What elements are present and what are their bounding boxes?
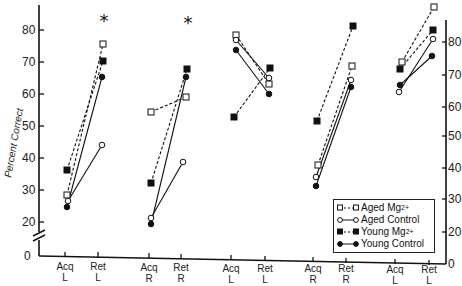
x-label-side: L bbox=[95, 272, 101, 283]
x-label-side: L bbox=[262, 274, 268, 285]
aged-mg-marker bbox=[266, 81, 272, 87]
markers bbox=[64, 4, 437, 227]
young-control-marker bbox=[183, 74, 189, 80]
left-tick-40: 40 bbox=[22, 151, 36, 165]
young-control-marker bbox=[348, 84, 354, 90]
right-tick-50: 50 bbox=[448, 129, 462, 143]
filled-circle-solid-icon bbox=[337, 240, 359, 248]
young-control-marker bbox=[99, 74, 105, 80]
legend-item-aged-mg: Aged Mg2+ bbox=[337, 202, 431, 214]
young-control-marker bbox=[233, 47, 239, 53]
aged-mg-marker bbox=[183, 94, 189, 100]
x-label-side: R bbox=[145, 273, 152, 284]
x-axis: Acq L Ret L Acq R Ret R Acq L Ret L Acq … bbox=[39, 252, 446, 286]
left-tick-20: 20 bbox=[22, 215, 36, 229]
x-label-ret: Ret bbox=[90, 261, 106, 272]
young-control-marker bbox=[266, 91, 272, 97]
x-label-acq: Acq bbox=[140, 262, 157, 273]
young-control-marker bbox=[313, 183, 319, 189]
aged-control-marker bbox=[233, 37, 239, 43]
right-tick-20: 20 bbox=[448, 225, 462, 239]
young-mg-marker bbox=[397, 66, 403, 72]
young-mg-marker bbox=[314, 118, 320, 124]
x-label-acq: Acq bbox=[222, 263, 239, 274]
x-label-side: R bbox=[309, 274, 316, 285]
right-tick-60: 60 bbox=[448, 100, 462, 114]
aged-control-marker bbox=[266, 75, 272, 81]
aged-control-marker bbox=[65, 198, 71, 204]
x-label-side: L bbox=[62, 272, 68, 283]
aged-mg-marker bbox=[349, 63, 355, 69]
young-control-marker bbox=[429, 53, 435, 59]
aged-mg-marker bbox=[399, 59, 405, 65]
open-circle-solid-icon bbox=[337, 216, 359, 224]
right-tick-70: 70 bbox=[448, 68, 462, 82]
young-control-marker bbox=[64, 204, 70, 210]
aged-mg-marker bbox=[64, 192, 70, 198]
legend-label: Aged Mg bbox=[361, 202, 401, 214]
aged-mg-marker bbox=[100, 41, 106, 47]
right-tick-30: 30 bbox=[448, 192, 462, 206]
data-series bbox=[67, 7, 434, 224]
x-label-side: R bbox=[177, 273, 184, 284]
legend-item-young-control: Young Control bbox=[337, 238, 431, 250]
y-axis-label: Percent Correct bbox=[2, 106, 25, 178]
open-square-dashed-icon bbox=[337, 204, 359, 212]
left-tick-60: 60 bbox=[22, 87, 36, 101]
right-tick-40: 40 bbox=[448, 161, 462, 175]
aged-control-marker bbox=[348, 77, 354, 83]
aged-mg-marker bbox=[431, 4, 437, 10]
left-tick-0: 0 bbox=[24, 249, 31, 263]
x-label-acq: Acq bbox=[56, 261, 73, 272]
significance-star: * bbox=[100, 10, 109, 31]
x-label-side: L bbox=[228, 274, 234, 285]
left-y-axis: 80 70 60 50 40 30 20 0 Percent Correct bbox=[2, 5, 45, 263]
aged-mg-marker bbox=[148, 109, 154, 115]
legend-item-aged-control: Aged Control bbox=[337, 214, 431, 226]
aged-mg-marker bbox=[315, 162, 321, 168]
young-mg-marker bbox=[267, 65, 273, 71]
aged-control-marker bbox=[396, 89, 402, 95]
x-label-side: R bbox=[342, 274, 349, 285]
young-mg-marker bbox=[430, 27, 436, 33]
legend-label: Young Mg bbox=[361, 226, 406, 238]
legend: Aged Mg2+ Aged Control Young Mg2+ Young … bbox=[333, 199, 435, 253]
x-label-acq: Acq bbox=[304, 263, 321, 274]
left-tick-80: 80 bbox=[22, 23, 36, 37]
significance-star: * bbox=[184, 12, 193, 33]
young-mg-marker bbox=[184, 66, 190, 72]
filled-square-dashed-icon bbox=[337, 228, 359, 236]
legend-item-young-mg: Young Mg2+ bbox=[337, 226, 431, 238]
aged-control-marker bbox=[313, 174, 319, 180]
aged-control-marker bbox=[180, 159, 186, 165]
aged-control-marker bbox=[99, 142, 105, 148]
young-mg-marker bbox=[231, 114, 237, 120]
legend-superscript: 2+ bbox=[401, 202, 409, 214]
aged-control-marker bbox=[148, 215, 154, 221]
legend-label: Young Control bbox=[361, 238, 424, 250]
left-tick-50: 50 bbox=[22, 119, 36, 133]
right-tick-0: 0 bbox=[448, 257, 455, 271]
right-y-axis: 80 70 60 50 40 30 20 0 bbox=[442, 20, 462, 271]
young-mg-marker bbox=[100, 58, 106, 64]
young-control-marker bbox=[148, 221, 154, 227]
x-label-ret: Ret bbox=[338, 263, 354, 274]
legend-superscript: 2+ bbox=[406, 226, 414, 238]
legend-label: Aged Control bbox=[361, 214, 419, 226]
x-label-acq: Acq bbox=[386, 264, 403, 275]
x-label-ret: Ret bbox=[421, 264, 437, 275]
x-label-side: L bbox=[392, 275, 398, 286]
x-label-ret: Ret bbox=[257, 263, 273, 274]
young-control-marker bbox=[397, 82, 403, 88]
x-label-ret: Ret bbox=[173, 262, 189, 273]
x-label-side: L bbox=[426, 275, 432, 286]
left-tick-70: 70 bbox=[22, 55, 36, 69]
left-tick-30: 30 bbox=[22, 183, 36, 197]
young-mg-marker bbox=[64, 167, 70, 173]
young-mg-marker bbox=[350, 23, 356, 29]
young-mg-marker bbox=[148, 180, 154, 186]
right-tick-80: 80 bbox=[448, 35, 462, 49]
aged-control-marker bbox=[430, 36, 436, 42]
